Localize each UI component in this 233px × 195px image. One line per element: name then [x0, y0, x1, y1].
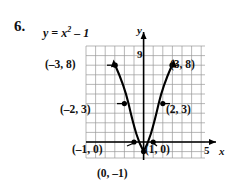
x-tick-label-5: 5	[204, 144, 210, 156]
coordinate-graph	[0, 0, 233, 195]
point-label-p1-0: (1, 0)	[145, 143, 170, 155]
point-label-0-m1: (0, –1)	[97, 167, 128, 179]
point-label-m1-0: (–1, 0)	[72, 143, 103, 155]
worksheet-figure: 6. y = x2 – 1	[0, 0, 233, 195]
point-label-m2-3: (–2, 3)	[60, 103, 91, 115]
point-label-p3-8: (3, 8)	[170, 58, 195, 70]
point-label-m3-8: (–3, 8)	[45, 58, 76, 70]
x-axis-label: x	[219, 145, 225, 157]
point-label-p2-3: (2, 3)	[166, 103, 191, 115]
y-tick-label-9: 9	[137, 48, 143, 60]
y-axis-label: y	[137, 24, 142, 36]
